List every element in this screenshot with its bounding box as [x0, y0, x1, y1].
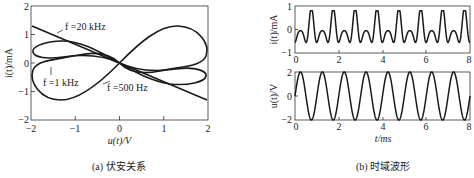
- a-ytick-0: 0: [24, 58, 29, 69]
- b-xlabel: t/ms: [375, 133, 392, 144]
- a-xtick-neg2: −2: [26, 123, 37, 134]
- a-ytick-neg1: −1: [18, 86, 29, 97]
- b-top-xtick-4: 4: [381, 54, 386, 65]
- curve-voltage: [295, 72, 470, 120]
- b-bot-ytick-2: 2: [287, 67, 292, 78]
- caption-a: (a) 伏安关系: [92, 158, 146, 173]
- b-top-ytick-0: 0: [287, 24, 292, 35]
- a-ytick-2: 2: [24, 1, 29, 12]
- b-bot-xtick-2: 2: [337, 121, 342, 132]
- b-top-ytick-1: 1: [287, 1, 292, 12]
- a-xtick-1: 1: [162, 123, 167, 134]
- annotation-1khz: f =1 kHz: [43, 77, 79, 88]
- a-ylabel: i(t)/mA: [3, 47, 15, 78]
- plot-a: f =20 kHz f =1 kHz f =500 Hz 2 1 0 −1 −2…: [3, 1, 211, 147]
- b-bot-ytick-neg2: −2: [281, 114, 292, 125]
- b-bot-xtick-0: 0: [294, 121, 299, 132]
- b-top-xtick-0: 0: [294, 54, 299, 65]
- b-bot-xtick-8: 8: [467, 121, 472, 132]
- figure: f =20 kHz f =1 kHz f =500 Hz 2 1 0 −1 −2…: [0, 0, 474, 178]
- b-bot-ylabel: u(t)/V: [268, 83, 280, 108]
- b-top-ytick-neg1: −1: [281, 47, 292, 58]
- annotation-500hz: f =500 Hz: [107, 82, 148, 93]
- b-top-xtick-8: 8: [467, 54, 472, 65]
- a-xtick-0: 0: [117, 123, 122, 134]
- a-xlabel: u(t)/V: [108, 135, 133, 147]
- b-top-xtick-6: 6: [424, 54, 429, 65]
- annotation-20khz: f =20 kHz: [65, 21, 106, 32]
- plot-b-current: 1 0 −1 0 2 4 6 8 i(t)/mA: [268, 1, 472, 65]
- b-top-ylabel: i(t)/mA: [268, 14, 280, 45]
- plot-b-voltage: 2 0 −2 0 2 4 6 8 t/ms u(t)/V: [268, 67, 472, 144]
- b-bot-xtick-6: 6: [424, 121, 429, 132]
- b-top-xtick-2: 2: [337, 54, 342, 65]
- a-ytick-1: 1: [24, 29, 29, 40]
- caption-b: (b) 时域波形: [356, 158, 410, 173]
- b-bot-xtick-4: 4: [381, 121, 386, 132]
- b-bot-ytick-0: 0: [287, 91, 292, 102]
- a-xtick-neg1: −1: [70, 123, 81, 134]
- a-xtick-2: 2: [206, 123, 211, 134]
- curve-current: [295, 11, 470, 43]
